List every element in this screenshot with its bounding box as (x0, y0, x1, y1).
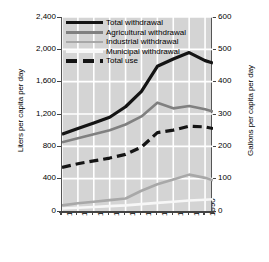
legend-swatch-icon (66, 41, 103, 44)
y-axis-title-left: Liters per capita per day (16, 41, 25, 181)
y-tick-right: 300 (218, 109, 248, 118)
y-tick-right: 600 (218, 12, 248, 21)
legend-swatch-icon (66, 21, 103, 24)
y-tick-right: 200 (218, 141, 248, 150)
legend-label: Industrial withdrawal (106, 37, 178, 47)
x-axis-line (59, 211, 214, 213)
legend-swatch-icon (66, 50, 103, 53)
series-agricultural-withdrawal (62, 103, 213, 143)
y-tick-left: 400 (26, 173, 56, 182)
legend-label: Municipal withdrawal (106, 47, 180, 57)
legend-item: Industrial withdrawal (66, 37, 206, 47)
y-tick-left: 1,600 (26, 76, 56, 85)
y-tick-right: 400 (218, 76, 248, 85)
y-tick-right: 500 (218, 44, 248, 53)
y-tick-left: 1,200 (26, 109, 56, 118)
y-tick-left: 0 (26, 206, 56, 215)
y-tick-right: 0 (218, 206, 248, 215)
chart-legend: Total withdrawalAgricultural withdrawalI… (66, 18, 206, 66)
legend-swatch-icon (66, 31, 103, 34)
legend-swatch-icon (66, 59, 103, 62)
legend-item: Agricultural withdrawal (66, 28, 206, 38)
legend-item: Municipal withdrawal (66, 47, 206, 57)
y-tick-left: 2,000 (26, 44, 56, 53)
legend-item: Total use (66, 56, 206, 66)
y-tick-right: 100 (218, 173, 248, 182)
legend-label: Agricultural withdrawal (106, 28, 186, 38)
y-tick-left: 800 (26, 141, 56, 150)
legend-item: Total withdrawal (66, 18, 206, 28)
legend-label: Total use (106, 56, 138, 66)
legend-label: Total withdrawal (106, 18, 163, 28)
y-tick-left: 2,400 (26, 12, 56, 21)
chart-figure: Liters per capita per day Gallons per ca… (0, 0, 269, 262)
